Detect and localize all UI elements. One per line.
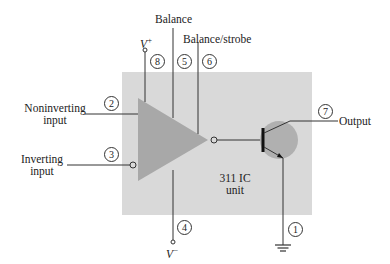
balance-label: Balance — [155, 13, 192, 25]
inverting-line2: input — [17, 165, 67, 177]
output-label: Output — [339, 115, 371, 127]
vminus-label: V− — [166, 245, 178, 260]
ic-unit-line1: 311 IC — [205, 172, 265, 184]
vminus-terminal — [171, 240, 175, 244]
pin-4: 4 — [177, 220, 192, 235]
ground-icon — [275, 245, 291, 251]
noninverting-input-label: Noninverting input — [20, 102, 90, 126]
pin-3: 3 — [104, 147, 119, 162]
comparator-output-bubble — [211, 137, 217, 143]
pin-6: 6 — [202, 54, 217, 69]
pin-1: 1 — [288, 222, 303, 237]
inverting-line1: Inverting — [17, 153, 67, 165]
vminus-sup: − — [173, 246, 178, 255]
noninverting-line1: Noninverting — [20, 102, 90, 114]
noninverting-line2: input — [20, 114, 90, 126]
inverting-input-label: Inverting input — [17, 153, 67, 177]
ic-unit-label: 311 IC unit — [205, 172, 265, 196]
vminus-text: V — [166, 248, 173, 260]
inverting-bubble — [130, 162, 136, 168]
pin-5: 5 — [177, 54, 192, 69]
pin-8: 8 — [150, 54, 165, 69]
pin-2: 2 — [104, 96, 119, 111]
vplus-text: V — [140, 38, 147, 50]
balance-strobe-label: Balance/strobe — [183, 33, 251, 45]
pin-7: 7 — [318, 104, 333, 119]
ic-unit-line2: unit — [205, 184, 265, 196]
vplus-label: V+ — [140, 35, 152, 50]
vplus-sup: + — [147, 36, 152, 45]
